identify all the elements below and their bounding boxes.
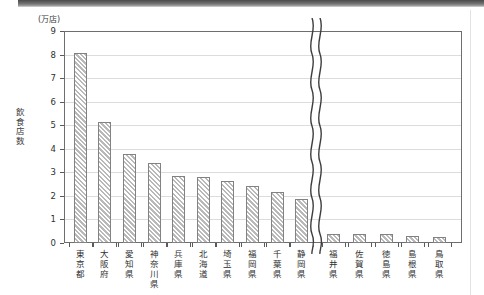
x-tick-label-char: 兵 <box>172 249 186 259</box>
x-tick-mark <box>118 243 119 247</box>
bar <box>380 234 393 243</box>
x-tick-label-char: 県 <box>221 269 235 279</box>
x-tick-mark <box>313 243 314 247</box>
x-tick-label-char: 北 <box>196 249 210 259</box>
y-tick-label: 2 <box>51 191 56 201</box>
x-tick-label-char: 神 <box>147 249 161 259</box>
x-axis-ticks <box>64 243 462 248</box>
bar <box>98 122 111 243</box>
x-tick-label-char: 賀 <box>353 259 367 269</box>
x-tick-label-char: 庫 <box>172 259 186 269</box>
x-tick-mark <box>93 243 94 247</box>
x-tick-mark <box>375 243 376 247</box>
x-tick-label-char: 県 <box>406 269 420 279</box>
bar <box>148 163 161 243</box>
x-tick-mark <box>348 243 349 247</box>
x-tick-label: 徳島県 <box>379 249 393 279</box>
x-tick-label-char: 葉 <box>270 259 284 269</box>
x-tick-label: 静岡県 <box>295 249 309 279</box>
x-tick-mark <box>143 243 144 247</box>
y-axis: 0123456789 <box>0 31 64 243</box>
x-tick-mark <box>345 243 346 247</box>
x-tick-label-char: 府 <box>98 269 112 279</box>
x-tick-label-char: 取 <box>432 259 446 269</box>
x-tick-label-char: 京 <box>73 259 87 269</box>
x-tick-label-char: 阪 <box>98 259 112 269</box>
x-tick-label-char: 県 <box>172 269 186 279</box>
y-tick-label: 8 <box>51 50 56 60</box>
x-tick-label-char: 県 <box>123 269 137 279</box>
x-tick-mark <box>398 243 399 247</box>
bar <box>172 176 185 243</box>
x-tick-label-char: 埼 <box>221 249 235 259</box>
x-tick-mark <box>167 243 168 247</box>
x-tick-label-char: 静 <box>295 249 309 259</box>
y-axis-unit-label: (万店) <box>38 13 60 24</box>
bar <box>295 199 308 243</box>
y-tick-label: 0 <box>51 238 56 248</box>
x-tick-label-char: 大 <box>98 249 112 259</box>
bar <box>123 154 136 244</box>
x-tick-mark <box>401 243 402 247</box>
x-tick-label-char: 佐 <box>353 249 367 259</box>
x-tick-mark <box>322 243 323 247</box>
x-tick-label-char: 海 <box>196 259 210 269</box>
x-tick-label-char: 県 <box>246 269 260 279</box>
x-tick-label-char: 奈 <box>147 259 161 269</box>
x-tick-label-char: 東 <box>73 249 87 259</box>
bar <box>74 53 87 243</box>
bar <box>406 236 419 243</box>
y-tick-label: 6 <box>51 97 56 107</box>
x-tick-label-char: 県 <box>326 269 340 279</box>
x-tick-label: 佐賀県 <box>353 249 367 279</box>
x-tick-label-char: 岡 <box>295 259 309 269</box>
x-tick-label-char: 玉 <box>221 259 235 269</box>
x-tick-label-char: 県 <box>432 269 446 279</box>
y-tick-label: 3 <box>51 167 56 177</box>
x-tick-label-char: 県 <box>295 269 309 279</box>
x-tick-mark <box>290 243 291 247</box>
x-tick-label-char: 島 <box>379 259 393 269</box>
x-tick-label-char: 道 <box>196 269 210 279</box>
bar-chart: (万店) 飲食店数 0123456789 東京都大阪府愛知県神奈川県兵庫県北海道… <box>0 0 484 295</box>
x-tick-label-char: 徳 <box>379 249 393 259</box>
x-tick-label-char: 岡 <box>246 259 260 269</box>
x-axis-labels: 東京都大阪府愛知県神奈川県兵庫県北海道埼玉県福岡県千葉県静岡県福井県佐賀県徳島県… <box>64 249 462 295</box>
x-tick-mark <box>69 243 70 247</box>
bar <box>271 192 284 243</box>
bars-group <box>64 31 462 243</box>
x-tick-label: 愛知県 <box>123 249 137 279</box>
x-tick-label-char: 鳥 <box>432 249 446 259</box>
bar <box>327 234 340 243</box>
x-tick-label: 大阪府 <box>98 249 112 279</box>
bar <box>197 177 210 243</box>
x-tick-label-char: 福 <box>246 249 260 259</box>
x-tick-label-char: 県 <box>353 269 367 279</box>
x-tick-label: 神奈川県 <box>147 249 161 289</box>
x-tick-label-char: 都 <box>73 269 87 279</box>
y-tick-label: 9 <box>51 26 56 36</box>
x-tick-label: 福岡県 <box>246 249 260 279</box>
x-tick-mark <box>371 243 372 247</box>
x-tick-mark <box>451 243 452 247</box>
x-tick-label: 東京都 <box>73 249 87 279</box>
x-tick-mark <box>424 243 425 247</box>
x-tick-label-char: 井 <box>326 259 340 269</box>
x-tick-label: 島根県 <box>406 249 420 279</box>
x-tick-label: 鳥取県 <box>432 249 446 279</box>
y-tick-label: 5 <box>51 120 56 130</box>
x-tick-label-char: 福 <box>326 249 340 259</box>
x-tick-label-char: 知 <box>123 259 137 269</box>
bar <box>246 186 259 243</box>
x-tick-mark <box>216 243 217 247</box>
x-tick-mark <box>428 243 429 247</box>
x-tick-label-char: 愛 <box>123 249 137 259</box>
x-tick-label-char: 県 <box>379 269 393 279</box>
x-tick-label-char: 県 <box>147 279 161 289</box>
x-tick-label: 兵庫県 <box>172 249 186 279</box>
x-tick-label: 千葉県 <box>270 249 284 279</box>
x-tick-label-char: 千 <box>270 249 284 259</box>
x-tick-label: 埼玉県 <box>221 249 235 279</box>
y-tick-label: 4 <box>51 144 56 154</box>
y-tick-label: 7 <box>51 73 56 83</box>
